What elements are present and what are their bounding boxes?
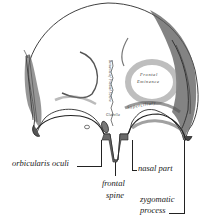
frontal-eminence-label-line1: Frontal — [140, 73, 158, 78]
nasal-part-label: nasal part — [138, 164, 173, 173]
nasal-part-leader-horizontal — [132, 170, 137, 171]
frontal-suture-label: Remains of Frontal Suture — [108, 60, 112, 102]
zygomatic-process-label-line2: process — [140, 206, 166, 215]
nasal-part-leader-vertical — [132, 140, 133, 170]
zygomatic-process-leader-vertical — [184, 140, 185, 214]
zygomatic-process-label-line1: zygomatic — [140, 195, 174, 204]
glabella-label: Glabella — [106, 114, 120, 118]
orbicularis-oculi-leader-horizontal — [77, 166, 102, 167]
zygomatic-process-leader-horizontal — [169, 213, 185, 214]
frontal-eminence-label-line2: Eminence — [137, 80, 160, 85]
frontal-spine-label-line1: frontal — [102, 179, 125, 188]
frontal-bone-illustration: Frontal Eminence Superciliary Remains of… — [0, 0, 213, 220]
frontal-spine-label-line2: spine — [106, 191, 124, 200]
orbicularis-oculi-label: orbicularis oculi — [12, 159, 69, 168]
frontal-spine-leader — [115, 162, 116, 176]
orbicularis-oculi-leader-vertical — [101, 140, 102, 167]
